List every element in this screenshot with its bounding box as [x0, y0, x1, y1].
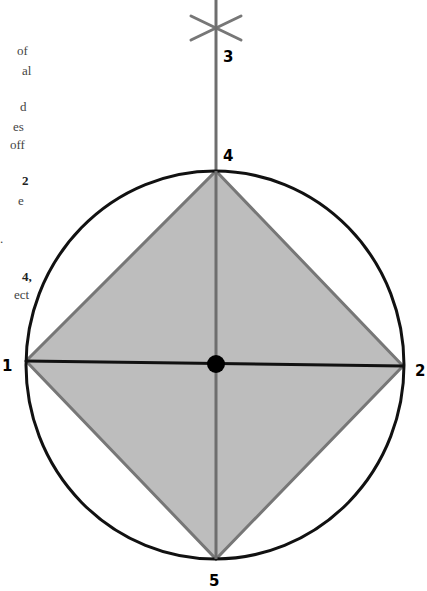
- point-label-1: 1: [2, 357, 12, 375]
- geometric-diagram: 12345: [0, 0, 427, 591]
- center-dot: [207, 355, 225, 373]
- point-label-3: 3: [223, 48, 233, 66]
- point-label-2: 2: [415, 362, 425, 380]
- point-label-5: 5: [209, 572, 219, 590]
- point-label-4: 4: [223, 147, 233, 165]
